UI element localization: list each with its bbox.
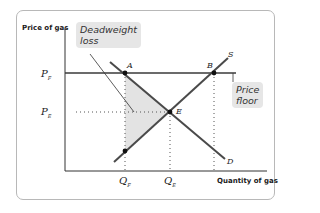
point-e-label: E xyxy=(176,107,182,116)
qe-tick-label: QE xyxy=(164,175,176,188)
floor-line1: Price xyxy=(236,84,259,95)
pe-main: P xyxy=(41,106,48,117)
qf-sub: F xyxy=(127,182,130,188)
deadweight-line2: loss xyxy=(80,35,137,46)
x-axis-label: Quantity of gas xyxy=(217,177,278,185)
point-e-marker xyxy=(168,110,173,115)
qf-main: Q xyxy=(119,175,127,186)
deadweight-loss-callout: Deadweight loss xyxy=(76,22,141,48)
pe-sub: E xyxy=(48,113,52,119)
qe-sub: E xyxy=(172,182,176,188)
floor-line2: floor xyxy=(236,95,259,106)
price-floor-callout: Price floor xyxy=(232,82,263,108)
point-a-label: A xyxy=(127,61,133,70)
demand-label: D xyxy=(227,157,233,166)
qe-main: Q xyxy=(164,175,172,186)
point-a-marker xyxy=(123,71,128,76)
y-axis-label: Price of gas xyxy=(22,24,69,32)
pf-main: P xyxy=(41,68,48,79)
point-b-marker xyxy=(212,71,217,76)
pf-tick-label: PF xyxy=(41,68,51,81)
deadweight-line1: Deadweight xyxy=(80,24,137,35)
pf-sub: F xyxy=(48,75,51,81)
qf-tick-label: QF xyxy=(119,175,131,188)
point-b-label: B xyxy=(207,61,213,70)
deadweight-loss-area xyxy=(125,73,170,151)
pe-tick-label: PE xyxy=(41,106,51,119)
supply-label: S xyxy=(228,50,233,59)
supply-at-qf-marker xyxy=(123,149,128,154)
